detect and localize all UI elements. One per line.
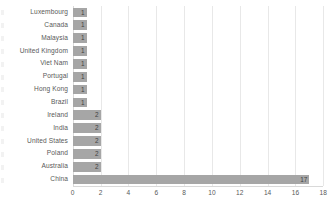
bar-value-label: 1 <box>81 98 85 108</box>
bar[interactable]: 2 <box>73 162 101 172</box>
bar-value-label: 2 <box>95 110 99 120</box>
bar[interactable]: 1 <box>73 98 87 108</box>
bar-row[interactable]: Brazil1 <box>0 96 336 109</box>
bar[interactable]: 2 <box>73 149 101 159</box>
bar-value-label: 1 <box>81 46 85 56</box>
bar-row[interactable]: China17 <box>0 173 336 186</box>
bar-row[interactable]: Australia2 <box>0 160 336 173</box>
x-tick-label: 8 <box>182 188 186 198</box>
bar-value-label: 1 <box>81 20 85 30</box>
bar[interactable]: 2 <box>73 110 101 120</box>
x-axis-ticks: 024681012141618 <box>73 188 324 200</box>
bar-rows: Luxembourg1Canada1Malaysia1United Kingdo… <box>0 6 336 186</box>
bar-container[interactable]: 1 <box>73 33 87 43</box>
category-label: United States <box>0 135 68 148</box>
x-tick-label: 14 <box>264 188 271 198</box>
bar-container[interactable]: 1 <box>73 85 87 95</box>
bar-container[interactable]: 1 <box>73 46 87 56</box>
bar-container[interactable]: 2 <box>73 110 101 120</box>
bar-value-label: 2 <box>95 162 99 172</box>
bar-row[interactable]: Portugal1 <box>0 70 336 83</box>
x-tick-label: 16 <box>292 188 299 198</box>
bar[interactable]: 1 <box>73 20 87 30</box>
bar-container[interactable]: 1 <box>73 59 87 69</box>
category-label: United Kingdom <box>0 45 68 58</box>
category-label: Malaysia <box>0 32 68 45</box>
bar-container[interactable]: 17 <box>73 175 310 185</box>
category-label: India <box>0 122 68 135</box>
category-label: Portugal <box>0 70 68 83</box>
category-label: Poland <box>0 147 68 160</box>
bar-row[interactable]: United States2 <box>0 135 336 148</box>
bar[interactable]: 1 <box>73 46 87 56</box>
bar-value-label: 2 <box>95 149 99 159</box>
bar[interactable]: 2 <box>73 123 101 133</box>
bar-chart: Luxembourg1Canada1Malaysia1United Kingdo… <box>0 0 336 205</box>
category-label: Luxembourg <box>0 6 68 19</box>
category-label: Viet Nam <box>0 57 68 70</box>
x-tick-label: 4 <box>127 188 131 198</box>
category-label: Australia <box>0 160 68 173</box>
bar-container[interactable]: 1 <box>73 72 87 82</box>
bar-row[interactable]: Malaysia1 <box>0 32 336 45</box>
bar-row[interactable]: Ireland2 <box>0 109 336 122</box>
bar[interactable]: 2 <box>73 136 101 146</box>
category-label: China <box>0 173 68 186</box>
bar-row[interactable]: Hong Kong1 <box>0 83 336 96</box>
bar-container[interactable]: 2 <box>73 123 101 133</box>
bar-row[interactable]: India2 <box>0 122 336 135</box>
bar[interactable]: 1 <box>73 72 87 82</box>
x-tick-label: 18 <box>320 188 327 198</box>
x-axis-line <box>73 186 324 187</box>
x-tick-label: 12 <box>236 188 243 198</box>
bar[interactable]: 1 <box>73 85 87 95</box>
x-tick-label: 0 <box>71 188 75 198</box>
bar-value-label: 2 <box>95 136 99 146</box>
x-tick-label: 2 <box>99 188 103 198</box>
x-tick-label: 6 <box>154 188 158 198</box>
category-label: Brazil <box>0 96 68 109</box>
bar-container[interactable]: 2 <box>73 149 101 159</box>
bar-row[interactable]: Canada1 <box>0 19 336 32</box>
category-label: Ireland <box>0 109 68 122</box>
category-label: Canada <box>0 19 68 32</box>
bar-row[interactable]: Poland2 <box>0 147 336 160</box>
bar[interactable]: 1 <box>73 59 87 69</box>
bar-container[interactable]: 2 <box>73 136 101 146</box>
bar-value-label: 1 <box>81 59 85 69</box>
bar-value-label: 1 <box>81 85 85 95</box>
x-tick-label: 10 <box>208 188 215 198</box>
bar-container[interactable]: 1 <box>73 98 87 108</box>
bar-row[interactable]: Viet Nam1 <box>0 57 336 70</box>
bar[interactable]: 17 <box>73 175 310 185</box>
bar-container[interactable]: 2 <box>73 162 101 172</box>
category-label: Hong Kong <box>0 83 68 96</box>
bar-row[interactable]: United Kingdom1 <box>0 45 336 58</box>
bar-value-label: 1 <box>81 33 85 43</box>
bar-value-label: 1 <box>81 72 85 82</box>
bar[interactable]: 1 <box>73 33 87 43</box>
bar[interactable]: 1 <box>73 8 87 18</box>
bar-value-label: 1 <box>81 8 85 18</box>
bar-container[interactable]: 1 <box>73 20 87 30</box>
bar-value-label: 17 <box>300 175 307 185</box>
bar-container[interactable]: 1 <box>73 8 87 18</box>
bar-row[interactable]: Luxembourg1 <box>0 6 336 19</box>
bar-value-label: 2 <box>95 123 99 133</box>
